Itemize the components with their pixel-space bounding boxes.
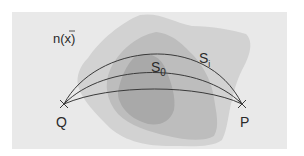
diagram-canvas: n(x) Si S0 Q P bbox=[0, 0, 304, 156]
diagram-svg: n(x) Si S0 Q P bbox=[0, 0, 304, 156]
label-p: P bbox=[240, 114, 249, 130]
label-q: Q bbox=[56, 114, 67, 130]
label-field: n(x) bbox=[53, 31, 75, 46]
